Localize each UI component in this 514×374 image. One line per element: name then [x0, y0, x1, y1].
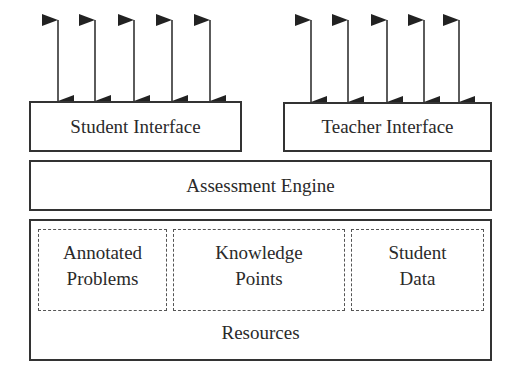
student-data-line1: Student	[388, 240, 446, 266]
student-interface-label: Student Interface	[70, 115, 200, 139]
assessment-engine-label: Assessment Engine	[186, 174, 334, 198]
student-data-box: Student Data	[351, 229, 484, 311]
teacher-interface-label: Teacher Interface	[321, 115, 453, 139]
student-data-line2: Data	[388, 266, 446, 292]
resources-label: Resources	[29, 321, 492, 345]
annotated-problems-line1: Annotated	[63, 240, 142, 266]
annotated-problems-line2: Problems	[63, 266, 142, 292]
knowledge-points-line2: Points	[215, 266, 303, 292]
knowledge-points-box: Knowledge Points	[173, 229, 345, 311]
student-interface-box: Student Interface	[29, 101, 242, 152]
teacher-interface-box: Teacher Interface	[283, 102, 492, 152]
assessment-engine-box: Assessment Engine	[29, 160, 492, 211]
knowledge-points-line1: Knowledge	[215, 240, 303, 266]
annotated-problems-box: Annotated Problems	[38, 229, 167, 311]
